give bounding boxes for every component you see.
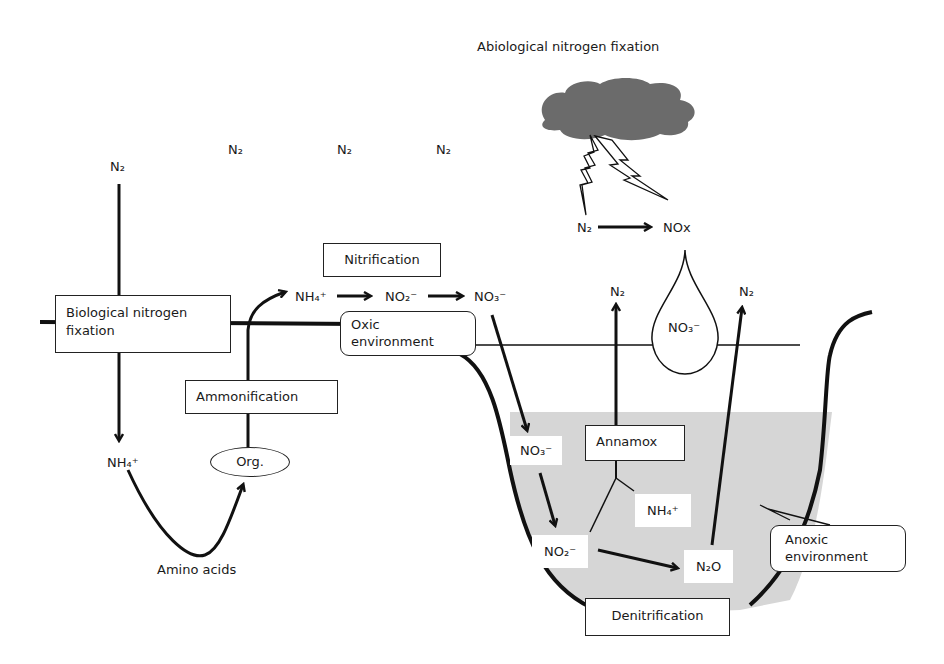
box-denitrification: Denitrification xyxy=(585,598,730,636)
box-nitrification: Nitrification xyxy=(323,243,441,277)
label-n2o-anoxic: N₂O xyxy=(684,550,733,583)
label-nh4-nitrification: NH₄⁺ xyxy=(295,290,327,303)
box-ammonification: Ammonification xyxy=(185,380,338,414)
box-annamox: Annamox xyxy=(585,425,685,461)
label-n2-lightning: N₂ xyxy=(577,221,592,234)
label-n2-denitrification: N₂ xyxy=(739,285,754,298)
nitrate-droplet xyxy=(652,250,718,374)
label-no2-anoxic: NO₂⁻ xyxy=(532,535,588,568)
label-no3-droplet: NO₃⁻ xyxy=(668,321,700,334)
ellipse-org: Org. xyxy=(210,447,290,477)
label-no3-nitrification: NO₃⁻ xyxy=(474,290,506,303)
label-n2-left: N₂ xyxy=(110,160,125,173)
label-nh4-anoxic: NH₄⁺ xyxy=(635,494,691,527)
label-no2-nitrification: NO₂⁻ xyxy=(385,290,417,303)
lightning-icon xyxy=(580,135,668,215)
label-amino-acids: Amino acids xyxy=(157,563,236,576)
label-no3-anoxic: NO₃⁻ xyxy=(510,436,562,465)
label-n2-atm-2: N₂ xyxy=(337,143,352,156)
label-n2-atm-3: N₂ xyxy=(436,143,451,156)
cloud-icon xyxy=(542,78,695,140)
label-nh4-left: NH₄⁺ xyxy=(107,456,139,469)
box-anoxic-environment: Anoxic environment xyxy=(770,525,906,572)
box-biological-fixation: Biological nitrogen fixation xyxy=(55,295,231,353)
title-abiological-fixation: Abiological nitrogen fixation xyxy=(477,40,659,53)
label-n2-annamox: N₂ xyxy=(610,285,625,298)
box-oxic-environment: Oxic environment xyxy=(340,311,476,356)
arrow-ammonification-to-nh4 xyxy=(248,292,285,381)
label-nox: NOx xyxy=(663,221,691,234)
label-n2-atm-1: N₂ xyxy=(228,143,243,156)
arrow-nh4-to-org xyxy=(128,470,243,556)
